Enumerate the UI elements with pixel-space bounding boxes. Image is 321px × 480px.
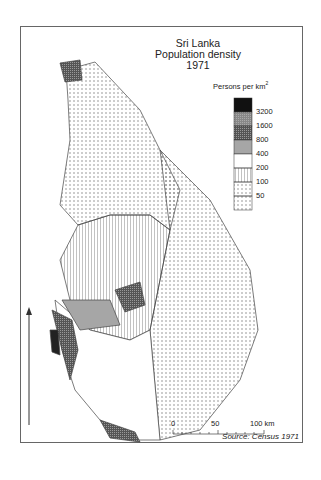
jaffna	[60, 60, 82, 82]
colombo-area	[50, 330, 60, 355]
scale-label-100: 100 km	[250, 419, 275, 428]
source-note: Source: Census 1971	[222, 432, 299, 441]
map-canvas	[0, 0, 321, 480]
map-title: Sri Lanka Population density 1971	[150, 38, 246, 71]
scale-label-0: 0	[171, 419, 175, 428]
island-north-region	[60, 62, 180, 230]
legend-heading: Persons per km2	[213, 80, 268, 91]
legend-label: 200	[256, 163, 269, 172]
legend-label: 800	[256, 135, 269, 144]
scale-label-50: 50	[211, 419, 219, 428]
legend-label: 1600	[256, 121, 273, 130]
legend-label: 50	[256, 191, 264, 200]
legend-label: 100	[256, 177, 269, 186]
legend-label: 3200	[256, 107, 273, 116]
title-line-3: 1971	[150, 60, 246, 71]
legend-label: 400	[256, 149, 269, 158]
north-arrow-icon	[26, 307, 32, 425]
